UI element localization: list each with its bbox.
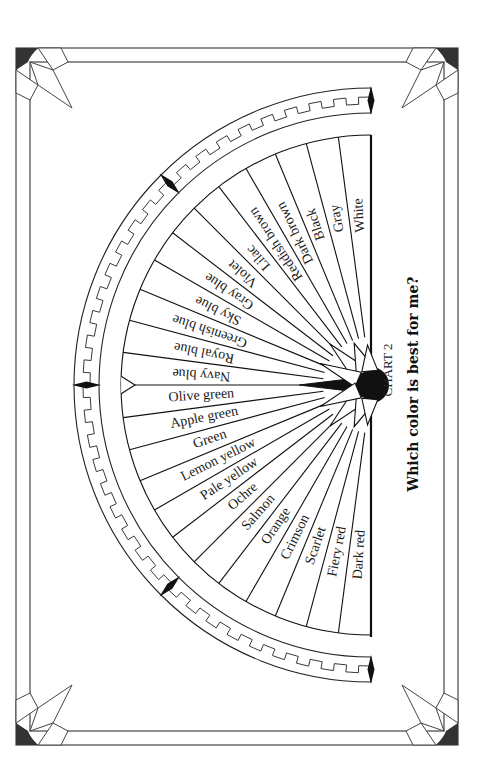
wedge-label: Green [191, 426, 228, 451]
wedge-label: Fiery red [324, 525, 349, 578]
chart-number-label: CHART 2 [380, 344, 395, 397]
wedge-label: White [350, 198, 367, 233]
wedge-label: Black [303, 207, 328, 243]
wedge-label: Dark red [350, 529, 368, 579]
wedge-label: Olive green [168, 385, 235, 404]
color-chart-diagram: WhiteGrayBlackDark brownReddish brownLil… [0, 0, 484, 778]
chart-title: Which color is best for me? [405, 276, 421, 492]
wedge-label: Navy blue [172, 366, 231, 385]
center-star-ornament [299, 343, 389, 426]
